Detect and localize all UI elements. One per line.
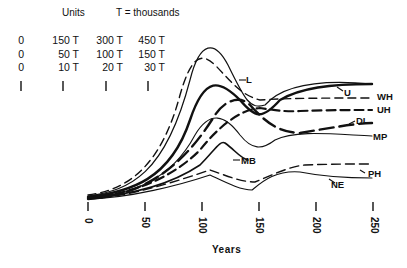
curve-WH [88, 58, 372, 195]
x-tick-200: 200 [311, 217, 322, 234]
series-label-L: L [246, 74, 252, 85]
x-tick-150: 150 [254, 217, 265, 234]
x-tick-100: 100 [197, 217, 208, 234]
series-label-MP: MP [373, 131, 387, 142]
series-label-WH: WH [377, 91, 393, 102]
scale-ticks [21, 81, 148, 91]
series-label-DI: DI [356, 115, 366, 126]
series-label-PH: PH [368, 168, 381, 179]
x-tick-50: 50 [140, 217, 151, 228]
x-axis-title: Years [212, 244, 241, 255]
curve-PH [88, 164, 372, 199]
x-tick-0: 0 [83, 218, 94, 224]
curve-L [88, 48, 372, 196]
series-label-UH: UH [377, 104, 391, 115]
series-label-U: U [344, 87, 351, 98]
series-label-MB: MB [241, 155, 256, 166]
x-axis-ticks [88, 202, 373, 211]
series-label-NE: NE [331, 179, 344, 190]
curve-NE [88, 172, 372, 199]
x-tick-250: 250 [369, 217, 380, 234]
